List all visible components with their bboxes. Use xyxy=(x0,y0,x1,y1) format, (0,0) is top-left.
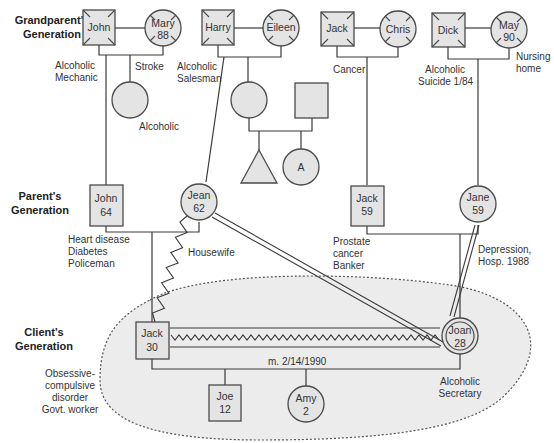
svg-text:28: 28 xyxy=(454,337,466,349)
svg-text:Generation: Generation xyxy=(15,340,73,352)
svg-text:59: 59 xyxy=(361,205,373,217)
svg-text:Secretary: Secretary xyxy=(439,388,482,399)
person-chris-grandmother[interactable]: Chris xyxy=(380,11,416,47)
generation-label-client: Client's Generation xyxy=(15,326,73,352)
svg-text:Mechanic: Mechanic xyxy=(55,72,98,83)
svg-text:Chris: Chris xyxy=(386,23,411,35)
person-eileen-grandmother[interactable]: Eileen xyxy=(263,10,299,46)
person-john-father[interactable]: John 64 xyxy=(90,185,123,226)
person-jane-mother-in-law[interactable]: Jane 59 xyxy=(460,186,496,222)
annotation-harry-grandfather: Alcoholic Salesman xyxy=(177,61,221,84)
annotation-john-grandfather: Alcoholic Mechanic xyxy=(55,60,98,83)
svg-text:Generation: Generation xyxy=(11,204,69,216)
person-jack-client-husband[interactable]: Jack 30 xyxy=(136,322,169,359)
svg-text:90: 90 xyxy=(503,31,515,43)
genogram: Grandparent's Generation Parent's Genera… xyxy=(0,0,554,443)
svg-text:John: John xyxy=(95,192,118,204)
svg-text:Obsessive-: Obsessive- xyxy=(45,368,95,379)
svg-text:Generation: Generation xyxy=(23,28,81,40)
person-cousin-a[interactable]: A xyxy=(283,149,319,185)
person-cousin-unknown-sex[interactable] xyxy=(241,150,277,183)
svg-text:Harry: Harry xyxy=(205,21,231,33)
svg-text:disorder: disorder xyxy=(52,392,89,403)
svg-text:May: May xyxy=(499,19,520,31)
svg-text:Parent's: Parent's xyxy=(19,190,62,202)
svg-text:Jack: Jack xyxy=(141,327,163,339)
svg-text:Diabetes: Diabetes xyxy=(68,246,107,257)
svg-text:Alcoholic: Alcoholic xyxy=(425,64,465,75)
svg-text:Grandparent's: Grandparent's xyxy=(15,14,90,26)
svg-text:home: home xyxy=(516,63,541,74)
svg-text:Nursing: Nursing xyxy=(516,51,550,62)
svg-text:Alcoholic: Alcoholic xyxy=(440,376,480,387)
svg-text:12: 12 xyxy=(219,403,231,415)
svg-text:88: 88 xyxy=(157,29,169,41)
svg-text:Client's: Client's xyxy=(24,326,63,338)
svg-text:59: 59 xyxy=(472,204,484,216)
svg-text:Jane: Jane xyxy=(467,191,490,203)
annotation-jack-grandfather: Cancer xyxy=(333,64,366,75)
svg-text:62: 62 xyxy=(193,202,205,214)
generation-label-parents: Parent's Generation xyxy=(11,190,69,216)
svg-text:Jack: Jack xyxy=(356,192,378,204)
svg-text:2: 2 xyxy=(303,405,309,417)
svg-text:Policeman: Policeman xyxy=(68,258,115,269)
svg-text:compulsive: compulsive xyxy=(45,380,95,391)
person-may-grandmother[interactable]: May 90 xyxy=(491,12,527,48)
annotation-joan-client: Alcoholic Secretary xyxy=(439,376,482,399)
svg-text:Alcoholic: Alcoholic xyxy=(55,60,95,71)
svg-text:A: A xyxy=(297,161,304,173)
svg-text:Suicide 1/84: Suicide 1/84 xyxy=(418,76,473,87)
person-harry-eileen-daughter[interactable] xyxy=(231,82,267,118)
svg-text:Jean: Jean xyxy=(188,189,211,201)
svg-text:Alcoholic: Alcoholic xyxy=(177,61,217,72)
svg-text:Mary: Mary xyxy=(151,17,175,29)
annotation-dick-grandfather: Alcoholic Suicide 1/84 xyxy=(418,64,473,87)
person-jean-mother[interactable]: Jean 62 xyxy=(181,184,217,220)
annotation-may-grandmother: Nursing home xyxy=(516,51,550,74)
svg-text:64: 64 xyxy=(100,206,112,218)
annotation-jane-mother-in-law: Depression, Hosp. 1988 xyxy=(478,244,531,267)
svg-text:30: 30 xyxy=(146,341,158,353)
svg-text:Hosp. 1988: Hosp. 1988 xyxy=(478,256,530,267)
person-aunt-alcoholic[interactable] xyxy=(112,82,148,118)
person-dick-grandfather[interactable]: Dick xyxy=(432,13,465,47)
svg-text:Jack: Jack xyxy=(326,22,348,34)
svg-text:Salesman: Salesman xyxy=(177,73,221,84)
annotation-jack-father-in-law: Prostate cancer Banker xyxy=(333,236,371,271)
generation-label-grandparents: Grandparent's Generation xyxy=(15,14,90,40)
person-john-grandfather[interactable]: John xyxy=(83,10,115,45)
person-jack-grandfather[interactable]: Jack xyxy=(321,12,354,46)
annotation-mary-grandmother: Stroke xyxy=(135,61,164,72)
annotation-jean-mother: Housewife xyxy=(188,247,235,258)
person-jack-father-in-law[interactable]: Jack 59 xyxy=(351,186,384,226)
annotation-aunt: Alcoholic xyxy=(139,121,179,132)
person-joe-son[interactable]: Joe 12 xyxy=(209,385,241,421)
svg-text:Depression,: Depression, xyxy=(478,244,531,255)
person-amy-daughter[interactable]: Amy 2 xyxy=(288,386,324,422)
svg-text:Joe: Joe xyxy=(217,390,234,402)
marriage-date-label: m. 2/14/1990 xyxy=(268,356,327,367)
person-harry-grandfather[interactable]: Harry xyxy=(202,10,234,45)
person-joan-index-client[interactable]: Joan 28 xyxy=(442,318,478,354)
svg-text:Eileen: Eileen xyxy=(266,21,295,33)
svg-text:Amy: Amy xyxy=(296,392,318,404)
svg-text:Dick: Dick xyxy=(438,24,459,36)
svg-text:Heart disease: Heart disease xyxy=(68,234,130,245)
svg-text:Prostate: Prostate xyxy=(333,236,371,247)
annotation-jack-client: Obsessive- compulsive disorder Govt. wor… xyxy=(42,368,99,415)
person-mary-grandmother[interactable]: Mary 88 xyxy=(145,10,181,46)
svg-text:John: John xyxy=(88,21,111,33)
svg-text:Banker: Banker xyxy=(333,260,365,271)
person-uncle-in-law[interactable] xyxy=(295,83,328,118)
svg-text:Govt. worker: Govt. worker xyxy=(42,404,99,415)
svg-text:cancer: cancer xyxy=(333,248,364,259)
annotation-john-father: Heart disease Diabetes Policeman xyxy=(68,234,130,269)
svg-text:Joan: Joan xyxy=(449,324,472,336)
